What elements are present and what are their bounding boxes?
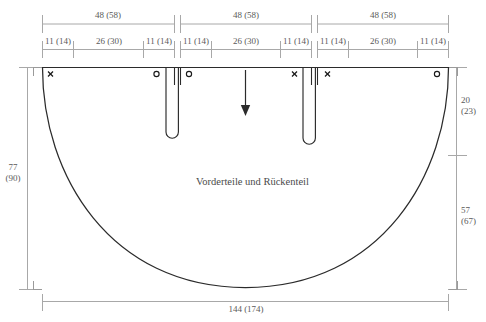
marker-panel2-circle xyxy=(186,71,191,76)
diagram-canvas xyxy=(0,0,486,322)
dim-label-top-minor-7: 11 (14) xyxy=(313,36,353,47)
marker-panel2-cross xyxy=(292,72,297,77)
grainline-arrowhead xyxy=(241,105,250,116)
dim-label-left: 77 (90) xyxy=(0,162,26,183)
marker-panel1-circle xyxy=(154,71,159,76)
dim-label-top-minor-1: 11 (14) xyxy=(38,36,78,47)
dim-label-bottom: 144 (174) xyxy=(203,304,289,315)
marker-panel3-cross xyxy=(325,72,330,77)
dim-label-top-minor-9: 11 (14) xyxy=(413,36,453,47)
dim-label-top-minor-5: 26 (30) xyxy=(225,36,267,47)
dim-label-right-lower: 57 (67) xyxy=(461,205,486,226)
marker-panel1-cross xyxy=(48,72,53,77)
dim-label-top-major-1: 48 (58) xyxy=(68,10,148,21)
slot-notch-2 xyxy=(303,68,315,145)
dim-label-top-minor-2: 26 (30) xyxy=(88,36,130,47)
dim-label-top-minor-8: 26 (30) xyxy=(362,36,404,47)
piece-label: Vorderteile und Rückenteil xyxy=(196,176,309,187)
dim-label-top-minor-4: 11 (14) xyxy=(176,36,216,47)
dim-label-right-upper: 20 (23) xyxy=(461,95,486,116)
slot-notch-1 xyxy=(166,68,178,139)
dim-label-top-major-3: 48 (58) xyxy=(343,10,423,21)
marker-panel3-circle xyxy=(434,71,439,76)
dim-label-top-minor-3: 11 (14) xyxy=(139,36,179,47)
dim-label-top-minor-6: 11 (14) xyxy=(276,36,316,47)
grainline-arrow xyxy=(241,70,250,116)
pattern-layout-diagram: 48 (58) 48 (58) 48 (58) 11 (14) 26 (30) … xyxy=(0,0,486,322)
dim-label-top-major-2: 48 (58) xyxy=(206,10,286,21)
